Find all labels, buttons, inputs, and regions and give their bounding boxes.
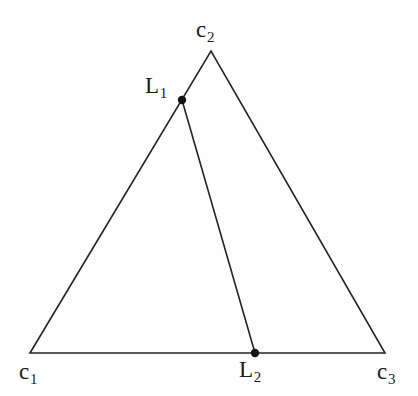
point-marker-l2 xyxy=(251,349,259,357)
label-c2-subscript: 2 xyxy=(206,29,214,45)
label-l1-base: L xyxy=(145,73,159,98)
label-l1-subscript: 1 xyxy=(159,85,167,101)
label-l2-base: L xyxy=(239,357,253,382)
label-c3-base: c xyxy=(377,359,387,384)
vertex-label-l1: L1 xyxy=(145,74,167,101)
vertex-label-c2: c2 xyxy=(196,18,215,45)
point-marker-l1 xyxy=(178,96,186,104)
label-c1-subscript: 1 xyxy=(29,371,37,387)
triangle-figure: c2 L1 c1 L2 c3 xyxy=(0,0,418,396)
interior-segment-l1-l2 xyxy=(182,100,255,353)
triangle-outline xyxy=(30,51,385,353)
vertex-label-c3: c3 xyxy=(377,360,396,387)
label-l2-subscript: 2 xyxy=(253,369,261,385)
vertex-label-c1: c1 xyxy=(19,360,38,387)
triangle-diagram xyxy=(0,0,418,396)
label-c1-base: c xyxy=(19,359,29,384)
vertex-label-l2: L2 xyxy=(239,358,261,385)
label-c3-subscript: 3 xyxy=(387,371,395,387)
label-c2-base: c xyxy=(196,17,206,42)
